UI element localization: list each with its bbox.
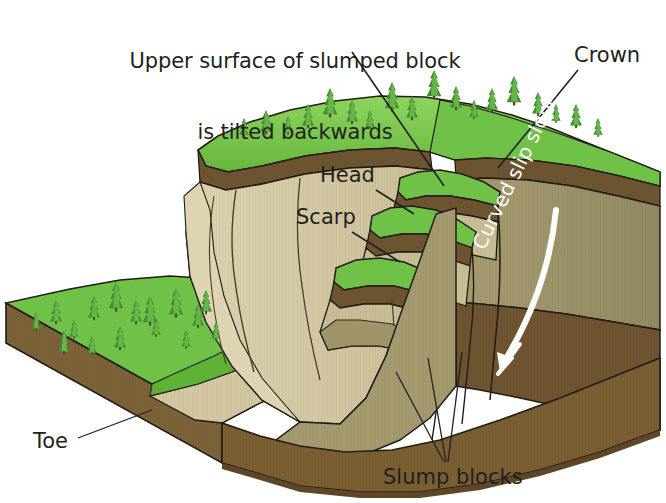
label-scarp: Scarp xyxy=(296,206,356,230)
figure-title: Upper surface of slumped block is tilted… xyxy=(85,3,505,191)
label-crown: Crown xyxy=(574,44,640,68)
figure-title-line1: Upper surface of slumped block xyxy=(85,50,505,74)
label-toe: Toe xyxy=(33,430,68,454)
figure-title-line2: is tilted backwards xyxy=(85,121,505,145)
label-slump-blocks: Slump blocks xyxy=(383,466,523,490)
slump-block-diagram: Upper surface of slumped block is tilted… xyxy=(0,0,666,503)
leader-toe xyxy=(78,410,152,438)
label-head: Head xyxy=(320,164,375,188)
